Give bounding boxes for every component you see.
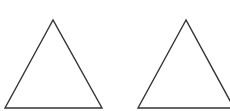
diagram-canvas [0,0,230,111]
left-triangle [5,20,102,108]
right-triangle [138,20,230,108]
triangles-figure [0,0,230,111]
